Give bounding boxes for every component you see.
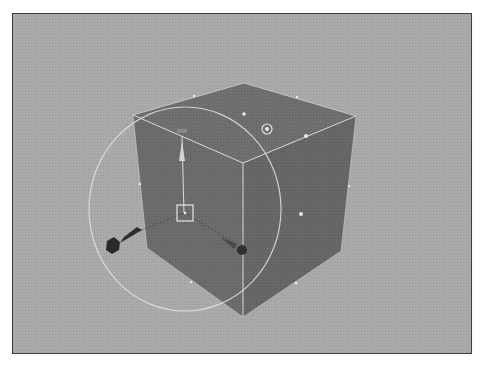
front-handle-icon[interactable]: [237, 245, 247, 255]
3d-viewport[interactable]: 3D perspective viewport: [12, 13, 472, 354]
up-arrow-cap: [177, 129, 187, 133]
scene-canvas[interactable]: [13, 14, 473, 355]
center-dot: [184, 212, 187, 215]
